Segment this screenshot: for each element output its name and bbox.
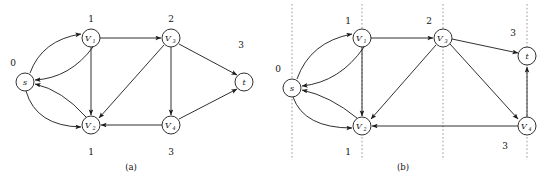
node-b-v4-subscript: 4 [527, 126, 531, 132]
node-b-v3-subscript: 3 [444, 38, 447, 44]
edge-b-s-to-v1 [297, 34, 352, 79]
node-b-v1-subscript: 1 [363, 38, 366, 44]
edge-b-s-to-v2 [293, 97, 352, 128]
node-b-s-label: s [290, 84, 294, 93]
node-v2-subscript: 2 [91, 125, 95, 131]
node-v4-subscript: 4 [171, 125, 175, 131]
edge-s-to-v2 [26, 91, 81, 127]
node-b-t-distance: 3 [510, 28, 516, 38]
edge-v4-to-t [179, 89, 237, 119]
node-b-v2-distance: 1 [345, 147, 351, 157]
edge-b-v2-to-s [302, 90, 357, 118]
node-v4-distance: 3 [168, 147, 174, 157]
node-v3-subscript: 3 [172, 38, 175, 44]
node-v2-distance: 1 [88, 147, 94, 157]
edge-v1-to-s [35, 47, 93, 80]
node-b-v3-distance: 2 [426, 16, 432, 26]
node-b-s-distance: 0 [275, 64, 281, 74]
node-s-label: s [23, 78, 27, 87]
edge-v3-to-v2 [99, 45, 164, 118]
edge-b-v3-to-v2 [371, 45, 436, 119]
node-v1-distance: 1 [88, 14, 94, 24]
edge-b-v3-to-t [452, 39, 518, 53]
edge-b-v1-to-s [302, 47, 364, 86]
graph-svg: s 0 V 1 1 V 3 2 t 3 V 2 1 V 4 3 (a) [0, 0, 544, 182]
node-t-distance: 3 [238, 40, 244, 50]
edge-b-v3-to-v4 [450, 44, 518, 119]
figure-canvas: s 0 V 1 1 V 3 2 t 3 V 2 1 V 4 3 (a) [0, 0, 544, 182]
node-b-v1-distance: 1 [345, 16, 351, 26]
panel-b-caption: (b) [397, 162, 409, 172]
node-v1-subscript: 1 [92, 38, 95, 44]
node-b-v4-distance: 3 [502, 141, 508, 151]
node-v3-distance: 2 [168, 14, 174, 24]
node-b-v2-subscript: 2 [362, 126, 366, 132]
edge-v2-to-s [35, 84, 86, 117]
panel-b: s 0 V 1 1 V 3 2 t 3 V 2 1 V 4 3 (b) [275, 4, 536, 172]
edge-v3-to-t [179, 44, 237, 75]
node-s-distance: 0 [10, 58, 16, 68]
panel-a: s 0 V 1 1 V 3 2 t 3 V 2 1 V 4 3 (a) [10, 14, 253, 172]
panel-a-caption: (a) [125, 162, 137, 172]
